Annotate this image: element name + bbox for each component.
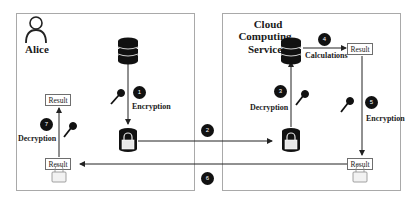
padlock-icon [0,0,418,200]
